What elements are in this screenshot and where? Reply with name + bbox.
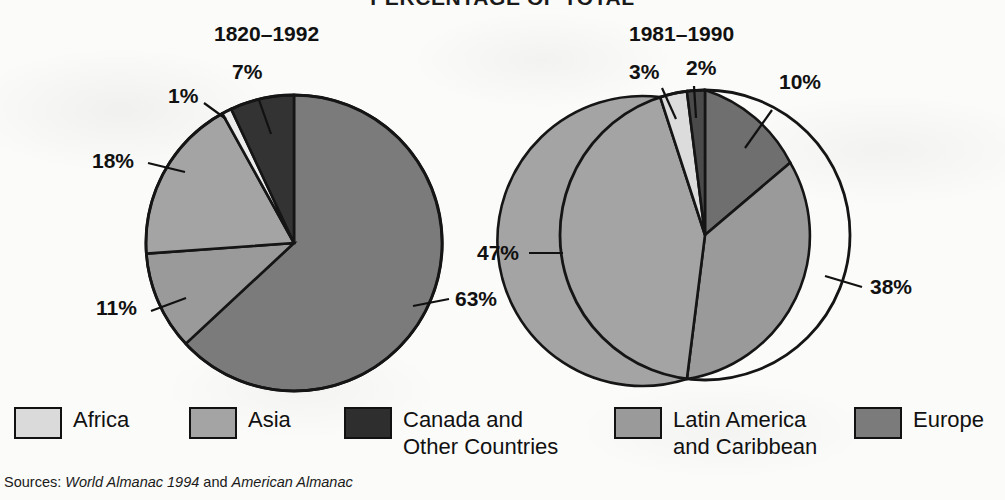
source-conjunction: and [199,474,231,490]
pie-right-label-38: 38% [870,275,912,299]
legend-item-africa: Africa [14,406,129,439]
chart-page: PERCENTAGE OF TOTAL 1820–1992 1981–1990 … [0,0,1005,500]
legend-label-africa: Africa [73,406,129,433]
legend-swatch-canada [344,407,392,439]
legend-item-asia: Asia [189,406,291,439]
pie-right-label-10: 10% [779,70,821,94]
legend-swatch-africa [14,407,62,439]
legend-item-europe: Europe [854,406,984,439]
legend-label-canada: Canada and Other Countries [403,406,558,460]
pie-right-label-2: 2% [686,56,716,80]
legend-label-europe: Europe [913,406,984,433]
legend-swatch-europe [854,407,902,439]
source-note: Sources: World Almanac 1994 and American… [4,474,353,490]
source-work-2: American Almanac [232,474,353,490]
legend-item-latin: Latin America and Caribbean [614,406,817,460]
legend-swatch-asia [189,407,237,439]
legend-swatch-latin [614,407,662,439]
legend-item-canada: Canada and Other Countries [344,406,558,460]
legend: Africa Asia Canada and Other Countries L… [14,406,994,464]
source-work-1: World Almanac 1994 [65,474,199,490]
legend-label-asia: Asia [248,406,291,433]
source-prefix: Sources: [4,474,65,490]
pie-right-label-47: 47% [477,241,519,265]
pie-right-slices [497,90,850,386]
pie-right-label-3: 3% [629,60,659,84]
legend-label-latin: Latin America and Caribbean [673,406,817,460]
pie-chart-right [0,0,1005,410]
